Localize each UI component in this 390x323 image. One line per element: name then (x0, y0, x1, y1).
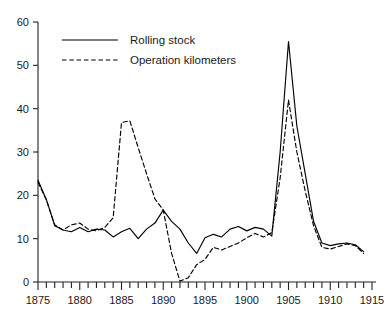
y-axis-tick-label: 60 (17, 16, 29, 28)
x-axis-tick-label: 1910 (318, 294, 342, 306)
x-axis-tick-label: 1885 (109, 294, 133, 306)
series-line-operation-kilometers (38, 100, 364, 281)
y-axis-tick-label: 50 (17, 59, 29, 71)
y-axis-tick-label: 30 (17, 146, 29, 158)
x-axis-tick-label: 1875 (26, 294, 50, 306)
legend-label: Rolling stock (130, 34, 195, 46)
y-axis-tick-label: 10 (17, 233, 29, 245)
x-axis-tick-label: 1900 (235, 294, 259, 306)
series-line-rolling-stock (38, 42, 364, 254)
x-axis-tick-label: 1880 (68, 294, 92, 306)
x-axis-tick-label: 1915 (360, 294, 384, 306)
y-axis-tick-label: 20 (17, 189, 29, 201)
line-chart: 0102030405060187518801885189018951900190… (0, 0, 390, 323)
chart-canvas: 0102030405060187518801885189018951900190… (0, 0, 390, 323)
legend-label: Operation kilometers (130, 54, 236, 66)
y-axis-tick-label: 0 (23, 276, 29, 288)
x-axis-tick-label: 1890 (151, 294, 175, 306)
y-axis-tick-label: 40 (17, 103, 29, 115)
x-axis-tick-label: 1905 (276, 294, 300, 306)
x-axis-tick-label: 1895 (193, 294, 217, 306)
